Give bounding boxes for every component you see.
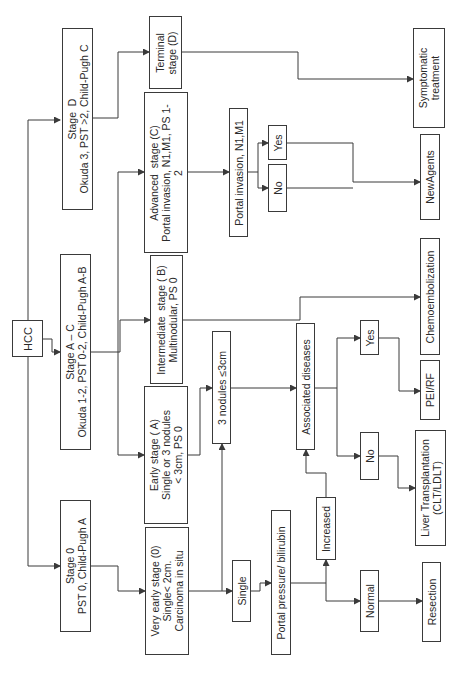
node-early-stage-label: Early stage ( A) Single or 3 nodules < 3… [148, 410, 184, 500]
node-symptomatic-treatment-label: Symptomatic treatment [417, 48, 441, 109]
node-terminal-stage: Terminal stage (D) [149, 16, 182, 89]
node-stage-d: Stage D Okuda 3, PST >2, Child-Pugh C [62, 28, 93, 210]
node-liver-transplantation-label: Liver Transplantation (CLT/LDLT) [419, 439, 443, 536]
node-no-portal-label: No [272, 181, 284, 194]
node-normal: Normal [360, 570, 379, 632]
node-resection: Resection [422, 562, 441, 642]
node-chemoembolization-label: Chemoembolization [424, 250, 436, 343]
node-advanced-stage-label: Advanced stage (C) Portal invasion, N1,M… [148, 104, 184, 242]
node-portal-invasion-label: Portal invasion, N1,M1 [233, 120, 245, 226]
node-portal-pressure: Portal pressure/ bilirubin [271, 510, 291, 655]
node-very-early-stage: Very early stage (0) Single< 2cm. Carcin… [145, 527, 189, 655]
node-stage-0: Stage 0 PST 0, Child-Pugh A [60, 500, 91, 632]
node-normal-label: Normal [364, 584, 376, 618]
node-new-agents-label: NewAgents [424, 150, 436, 204]
node-very-early-stage-label: Very early stage (0) Single< 2cm. Carcin… [149, 545, 185, 636]
hcc-staging-flowchart: HCC Stage D Okuda 3, PST >2, Child-Pugh … [0, 0, 454, 675]
node-yes-associated-label: Yes [364, 329, 376, 346]
node-associated-diseases: Associated diseases [296, 323, 315, 450]
node-no-associated: No [360, 432, 379, 480]
node-increased-label: Increased [320, 505, 332, 551]
node-resection-label: Resection [426, 579, 438, 626]
node-new-agents: NewAgents [420, 134, 440, 220]
node-single: Single [232, 560, 251, 622]
node-hcc: HCC [12, 320, 43, 357]
node-increased: Increased [316, 497, 336, 560]
node-stage-a-c: Stage A – C Okuda 1-2, PST 0-2, Child-Pu… [60, 254, 91, 450]
node-liver-transplantation: Liver Transplantation (CLT/LDLT) [415, 430, 446, 546]
node-pei-rf: PEI/RF [420, 360, 440, 420]
node-chemoembolization: Chemoembolization [420, 238, 440, 355]
node-stage-0-label: Stage 0 PST 0, Child-Pugh A [64, 518, 88, 614]
node-terminal-stage-label: Terminal stage (D) [154, 31, 178, 74]
node-three-nodules: 3 nodules ≤3cm [212, 331, 231, 444]
node-portal-pressure-label: Portal pressure/ bilirubin [275, 526, 287, 639]
node-intermediate-stage-label: Intermediate stage ( B) Multinodular, PS… [155, 265, 179, 375]
node-three-nodules-label: 3 nodules ≤3cm [216, 350, 228, 424]
node-yes-portal-label: Yes [272, 134, 284, 151]
node-no-portal: No [268, 164, 287, 212]
node-stage-d-label: Stage D Okuda 3, PST >2, Child-Pugh C [66, 45, 90, 194]
node-hcc-label: HCC [21, 327, 34, 351]
node-yes-associated: Yes [360, 320, 379, 355]
node-portal-invasion: Portal invasion, N1,M1 [229, 108, 248, 237]
node-pei-rf-label: PEI/RF [424, 373, 436, 407]
node-symptomatic-treatment: Symptomatic treatment [413, 28, 445, 128]
node-advanced-stage: Advanced stage (C) Portal invasion, N1,M… [144, 92, 188, 253]
node-intermediate-stage: Intermediate stage ( B) Multinodular, PS… [150, 255, 183, 384]
node-single-label: Single [236, 576, 248, 605]
node-early-stage: Early stage ( A) Single or 3 nodules < 3… [144, 386, 188, 524]
node-yes-portal: Yes [268, 125, 287, 160]
node-no-associated-label: No [364, 449, 376, 462]
node-stage-a-c-label: Stage A – C Okuda 1-2, PST 0-2, Child-Pu… [64, 267, 88, 438]
node-associated-diseases-label: Associated diseases [300, 339, 312, 435]
